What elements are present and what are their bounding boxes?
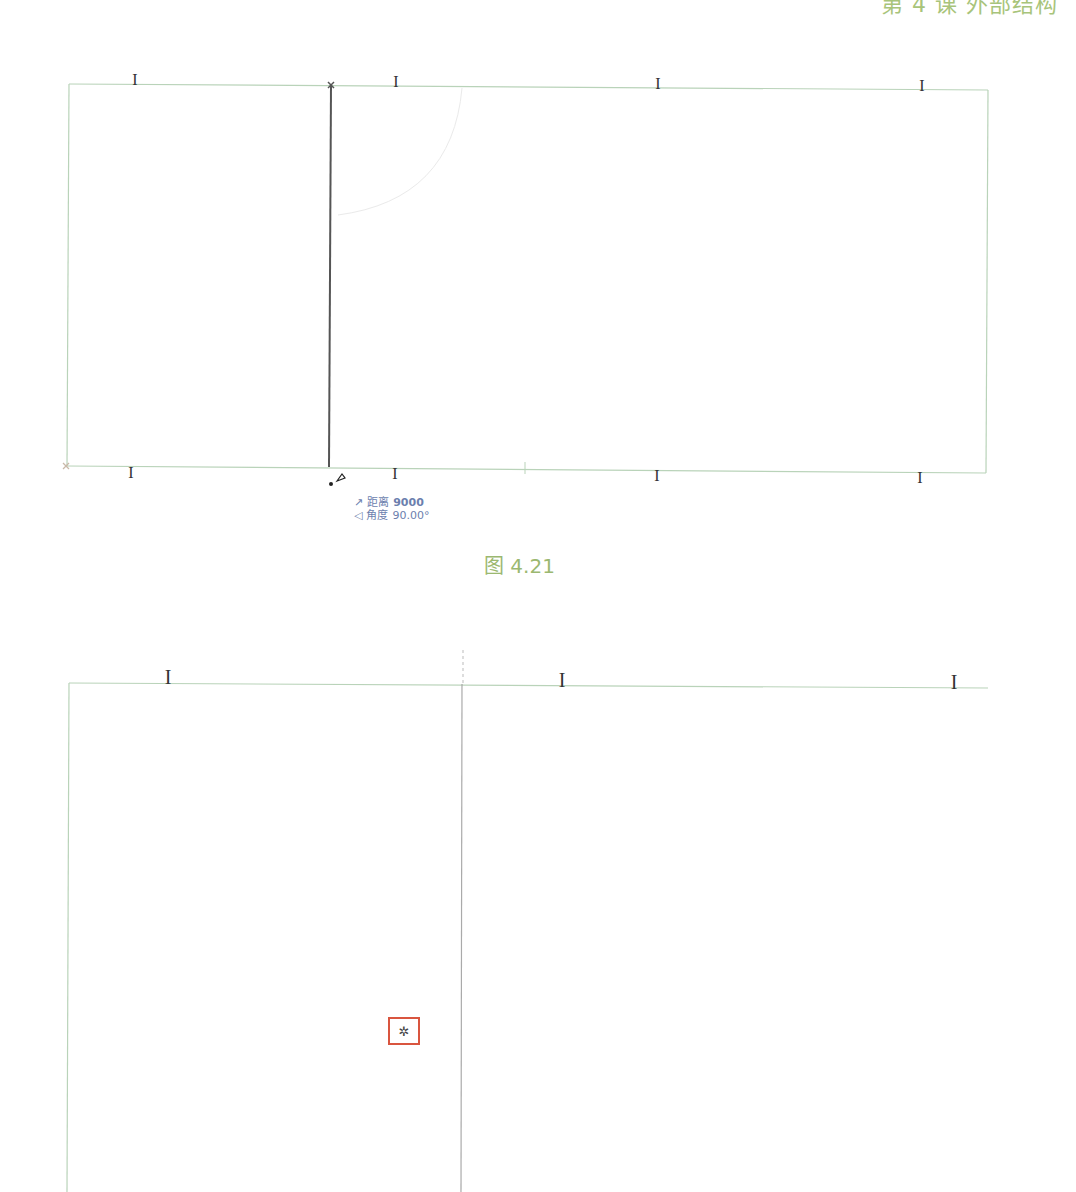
top-wall-outline [67,84,988,473]
angle-row: ◁角度90.00° [354,509,429,522]
beam-icon: I [654,468,659,484]
beam-icon: I [132,72,137,88]
distance-icon: ↗ [354,496,363,509]
angle-icon: ◁ [354,509,362,522]
beam-icon: I [917,470,922,486]
beam-icon: I [559,670,566,690]
distance-label: 距离 [367,496,389,509]
measure-tooltip: ↗距离9000 ◁角度90.00° [354,496,429,522]
snap-star-icon: ✲ [399,1024,410,1039]
snap-point-marker[interactable]: ✲ [388,1017,420,1045]
beam-icon: I [919,78,924,94]
figure-caption: 图 4.21 [484,550,555,579]
beam-icon: I [165,667,172,687]
beam-icon: I [393,74,398,90]
angle-arc-guide [338,88,462,215]
distance-row: ↗距离9000 [354,496,429,509]
drawing-canvas[interactable] [0,0,1076,1192]
bottom-divider-line[interactable] [461,684,462,1192]
beam-icon: I [951,672,958,692]
beam-icon: I [655,76,660,92]
beam-icon: I [392,466,397,482]
beam-icon: I [128,465,133,481]
pencil-cursor-icon [329,474,345,486]
drawn-wall-line[interactable] [329,85,331,467]
distance-value[interactable]: 9000 [393,496,424,509]
bottom-wall-outline [67,683,988,1192]
angle-label: 角度 [366,509,388,522]
angle-value[interactable]: 90.00° [392,509,429,522]
